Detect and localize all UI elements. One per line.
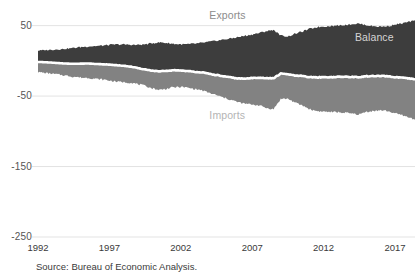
x-axis-tick-label: 2017 [372, 242, 418, 253]
series-label-imports: Imports [209, 109, 245, 121]
source-note: Source: Bureau of Economic Analysis. [36, 261, 197, 272]
y-axis-tick-label: -150 [0, 161, 32, 172]
x-axis-tick-label: 1997 [86, 242, 132, 253]
series-label-balance: Balance [355, 31, 394, 43]
y-axis-tick-label: -250 [0, 231, 32, 242]
x-axis-tick-label: 1992 [15, 242, 61, 253]
y-axis-tick-label: 50 [0, 20, 32, 31]
x-axis-tick-label: 2002 [158, 242, 204, 253]
trade-balance-chart: 50 -50 -150 -250 1992 1997 2002 2007 201… [0, 0, 418, 280]
y-axis-tick-label: -50 [0, 90, 32, 101]
x-axis-tick-label: 2007 [229, 242, 275, 253]
series-label-exports: Exports [209, 9, 245, 21]
x-axis-tick-label: 2012 [301, 242, 347, 253]
